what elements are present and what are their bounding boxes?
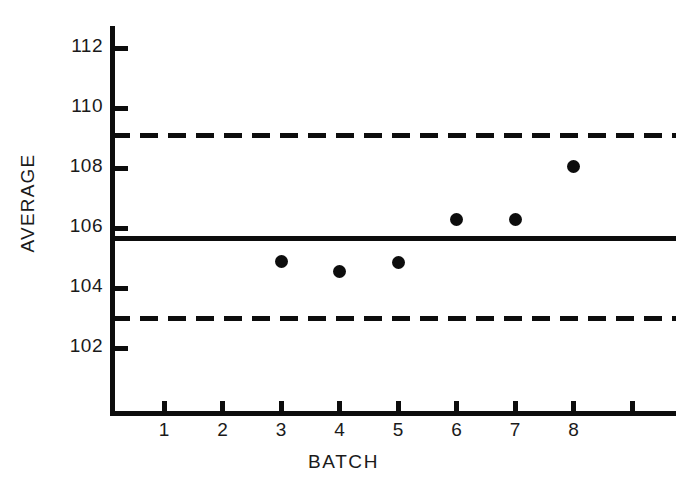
y-axis-tick: [115, 166, 128, 171]
x-axis-tick: [162, 401, 167, 412]
y-axis-tick: [115, 346, 128, 351]
x-axis-tick: [571, 401, 576, 412]
x-axis-tick-label: 8: [559, 419, 589, 441]
y-axis-tick-label: 110: [51, 95, 103, 117]
y-axis-tick: [115, 226, 128, 231]
center-line: [112, 236, 676, 241]
data-point: [567, 160, 580, 173]
data-point: [509, 213, 522, 226]
x-axis-tick: [513, 401, 518, 412]
data-point: [333, 265, 346, 278]
x-axis-tick: [279, 401, 284, 412]
y-axis-tick: [115, 286, 128, 291]
x-axis-tick-label: 5: [383, 419, 413, 441]
y-axis-tick: [115, 106, 128, 111]
x-axis-tick-label: 6: [442, 419, 472, 441]
x-axis-tick: [396, 401, 401, 412]
y-axis-spine: [110, 26, 115, 416]
y-axis-title: AVERAGE: [17, 123, 39, 283]
y-axis-tick-label: 108: [51, 155, 103, 177]
y-axis-tick: [115, 46, 128, 51]
y-axis-tick-label: 106: [51, 215, 103, 237]
control-chart: AVERAGE BATCH 102104106108110112 1234567…: [0, 0, 687, 493]
x-axis-tick: [454, 401, 459, 412]
y-axis-tick-label: 112: [51, 35, 103, 57]
x-axis-tick: [220, 401, 225, 412]
x-axis-title: BATCH: [0, 451, 687, 473]
x-axis-tick: [630, 401, 635, 412]
data-point: [275, 255, 288, 268]
data-point: [392, 256, 405, 269]
x-axis-tick-label: 1: [149, 419, 179, 441]
x-axis-spine: [110, 411, 676, 416]
x-axis-tick-label: 4: [325, 419, 355, 441]
x-axis-tick-label: 2: [208, 419, 238, 441]
x-axis-tick: [337, 401, 342, 412]
data-point: [450, 213, 463, 226]
y-axis-tick-label: 102: [51, 335, 103, 357]
x-axis-tick-label: 7: [500, 419, 530, 441]
y-axis-tick-label: 104: [51, 275, 103, 297]
lower-control-limit: [112, 316, 676, 321]
x-axis-tick-label: 3: [266, 419, 296, 441]
upper-control-limit: [112, 133, 676, 138]
